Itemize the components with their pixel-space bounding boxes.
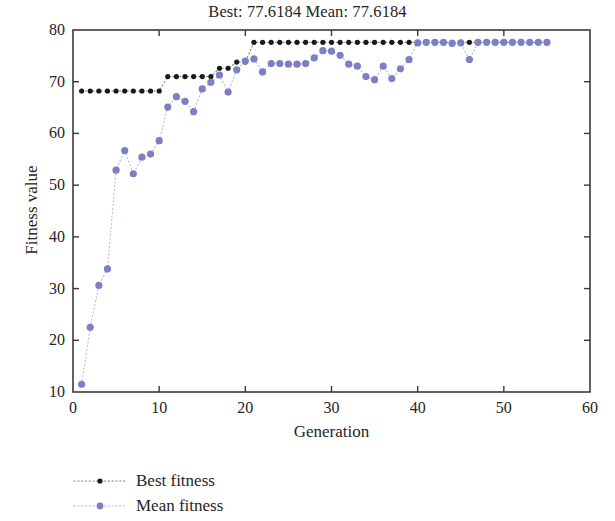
data-point-mean-fitness	[543, 39, 550, 46]
data-point-mean-fitness	[457, 39, 464, 46]
data-point-best-fitness	[139, 88, 144, 93]
legend-item-label: Mean fitness	[128, 496, 223, 516]
data-point-mean-fitness	[242, 57, 249, 64]
y-tick-label: 50	[29, 176, 65, 194]
plot-frame	[73, 30, 590, 392]
data-point-mean-fitness	[337, 52, 344, 59]
x-tick-label: 40	[410, 399, 426, 417]
data-point-best-fitness	[234, 59, 239, 64]
data-point-best-fitness	[88, 88, 93, 93]
y-tick-label: 60	[29, 124, 65, 142]
data-point-best-fitness	[303, 40, 308, 45]
data-point-best-fitness	[165, 74, 170, 79]
data-point-best-fitness	[174, 74, 179, 79]
data-point-mean-fitness	[509, 39, 516, 46]
data-point-mean-fitness	[311, 54, 318, 61]
data-point-mean-fitness	[328, 48, 335, 55]
series-line-best-fitness	[82, 42, 547, 91]
data-point-mean-fitness	[492, 39, 499, 46]
data-point-mean-fitness	[414, 39, 421, 46]
data-point-mean-fitness	[431, 39, 438, 46]
x-tick-label: 50	[496, 399, 512, 417]
data-point-best-fitness	[381, 40, 386, 45]
data-point-mean-fitness	[130, 170, 137, 177]
data-point-mean-fitness	[483, 39, 490, 46]
data-point-mean-fitness	[138, 154, 145, 161]
data-point-mean-fitness	[440, 39, 447, 46]
data-point-best-fitness	[131, 88, 136, 93]
data-point-best-fitness	[260, 40, 265, 45]
data-point-best-fitness	[182, 74, 187, 79]
data-point-best-fitness	[226, 66, 231, 71]
data-point-best-fitness	[96, 88, 101, 93]
data-point-best-fitness	[122, 88, 127, 93]
x-tick-label: 20	[237, 399, 253, 417]
data-point-mean-fitness	[354, 63, 361, 70]
data-point-mean-fitness	[112, 167, 119, 174]
y-tick-label: 70	[29, 73, 65, 91]
data-point-mean-fitness	[405, 56, 412, 63]
data-point-mean-fitness	[250, 55, 257, 62]
data-point-mean-fitness	[500, 39, 507, 46]
data-point-mean-fitness	[276, 60, 283, 67]
data-point-best-fitness	[79, 88, 84, 93]
y-tick-label: 10	[29, 383, 65, 401]
data-point-best-fitness	[406, 40, 411, 45]
data-point-mean-fitness	[423, 39, 430, 46]
data-point-mean-fitness	[293, 61, 300, 68]
data-point-mean-fitness	[526, 39, 533, 46]
x-tick-label: 10	[151, 399, 167, 417]
data-point-mean-fitness	[147, 151, 154, 158]
data-point-best-fitness	[217, 66, 222, 71]
data-point-mean-fitness	[181, 98, 188, 105]
x-tick-label: 30	[324, 399, 340, 417]
data-point-mean-fitness	[121, 147, 128, 154]
series-line-mean-fitness	[82, 42, 547, 384]
data-point-mean-fitness	[233, 66, 240, 73]
legend-item-best-fitness[interactable]: Best fitness	[72, 468, 372, 493]
x-tick-label: 0	[69, 399, 77, 417]
y-tick-label: 40	[29, 228, 65, 246]
data-point-best-fitness	[329, 40, 334, 45]
data-point-best-fitness	[363, 40, 368, 45]
data-point-mean-fitness	[302, 60, 309, 67]
y-tick-label: 20	[29, 331, 65, 349]
data-point-mean-fitness	[190, 108, 197, 115]
data-point-mean-fitness	[345, 61, 352, 68]
data-point-best-fitness	[157, 88, 162, 93]
data-point-mean-fitness	[104, 265, 111, 272]
data-point-mean-fitness	[87, 324, 94, 331]
data-point-best-fitness	[208, 74, 213, 79]
data-point-mean-fitness	[535, 39, 542, 46]
data-point-mean-fitness	[268, 60, 275, 67]
data-point-mean-fitness	[225, 88, 232, 95]
y-tick-label: 80	[29, 21, 65, 39]
data-point-best-fitness	[467, 40, 472, 45]
data-point-best-fitness	[148, 88, 153, 93]
data-point-mean-fitness	[199, 85, 206, 92]
data-point-mean-fitness	[259, 68, 266, 75]
data-point-mean-fitness	[216, 71, 223, 78]
data-point-mean-fitness	[362, 73, 369, 80]
data-point-mean-fitness	[380, 63, 387, 70]
data-point-best-fitness	[105, 88, 110, 93]
data-point-best-fitness	[338, 40, 343, 45]
x-tick-label: 60	[582, 399, 598, 417]
data-point-best-fitness	[191, 74, 196, 79]
data-point-mean-fitness	[95, 282, 102, 289]
legend-item-mean-fitness[interactable]: Mean fitness	[72, 493, 372, 518]
data-point-mean-fitness	[78, 381, 85, 388]
data-point-mean-fitness	[207, 79, 214, 86]
data-point-best-fitness	[269, 40, 274, 45]
data-point-mean-fitness	[164, 103, 171, 110]
legend-item-label: Best fitness	[128, 471, 215, 491]
chart-legend: Best fitnessMean fitness	[72, 468, 372, 518]
data-point-mean-fitness	[156, 137, 163, 144]
data-point-best-fitness	[200, 74, 205, 79]
y-tick-label: 30	[29, 280, 65, 298]
data-point-best-fitness	[294, 40, 299, 45]
legend-marker-icon	[72, 472, 128, 490]
data-point-best-fitness	[312, 40, 317, 45]
data-point-best-fitness	[346, 40, 351, 45]
data-point-mean-fitness	[474, 39, 481, 46]
